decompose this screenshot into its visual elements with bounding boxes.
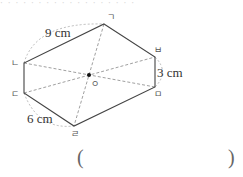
vertex-label-giyeok: ㄱ (107, 12, 115, 22)
vertex-label-digeut: ㄷ (11, 89, 19, 99)
vertex-label-bieup: ㅂ (154, 45, 162, 55)
side-length-3cm: 3 cm (157, 65, 183, 80)
center-point (87, 73, 91, 77)
hexagon-figure: ㄱ ㅂ ㅁ ㄹ ㄷ ㄴ ㅇ 9 cm 3 cm 6 cm (0, 0, 243, 177)
center-label: ㅇ (91, 79, 99, 89)
side-length-9cm: 9 cm (45, 25, 71, 40)
vertex-label-rieul: ㄹ (71, 129, 79, 139)
vertex-label-mieum: ㅁ (154, 89, 162, 99)
side-length-6cm: 6 cm (27, 111, 53, 126)
answer-paren-close: ) (228, 146, 235, 169)
answer-paren-open: ( (77, 146, 84, 169)
vertex-label-nieun: ㄴ (11, 58, 19, 68)
